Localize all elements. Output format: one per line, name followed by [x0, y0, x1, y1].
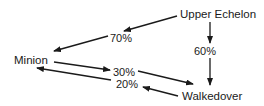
edge-label-60: 60% — [194, 46, 216, 57]
edge-label-30: 30% — [113, 67, 135, 78]
flow-diagram: Upper Echelon Minion Walkedover 70% 60% … — [0, 0, 264, 106]
arrow-walkedover-to-minion — [37, 68, 178, 96]
node-minion: Minion — [14, 55, 48, 67]
node-upper-echelon: Upper Echelon — [180, 9, 256, 21]
edge-label-20: 20% — [116, 79, 138, 90]
node-walkedover: Walkedover — [182, 91, 242, 103]
edge-label-70: 70% — [110, 33, 132, 44]
